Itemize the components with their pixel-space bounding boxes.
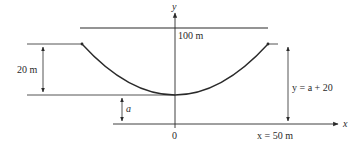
y-axis-label: y [171,1,177,12]
origin-label: 0 [172,130,177,141]
span-label: 100 m [178,30,204,41]
right-height-label: y = a + 20 [292,82,333,93]
x-axis-label: x [342,118,348,129]
sag-label: 20 m [17,64,38,75]
half-span-label: x = 50 m [257,130,293,141]
cable-diagram: y 100 m 20 m a y = a + 20 0 x = 50 m x [0,0,354,143]
offset-label: a [126,103,131,114]
